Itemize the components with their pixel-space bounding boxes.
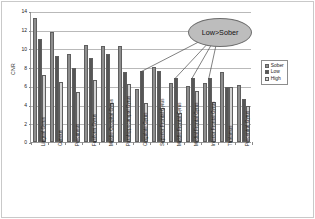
x-axis-tick-label: Parahippocampal Gyrus — [126, 96, 131, 146]
y-axis-tick-label: 10 — [10, 47, 27, 52]
bar-chart: CNR 14121086420 Lingual GyrusCuneusPrecu… — [0, 0, 315, 219]
y-axis-tick-mark — [29, 68, 32, 69]
legend-label: Sober — [271, 64, 284, 69]
x-axis-tick-label: Precuneus — [75, 124, 80, 146]
legend-swatch-icon — [265, 64, 269, 68]
y-axis-tick-mark — [29, 12, 32, 13]
x-axis-tick-label: Fusiform Gyrus — [92, 114, 97, 146]
x-axis-tick-label: Medial Frontal Gyrus — [194, 102, 199, 146]
y-axis-tick-label: 8 — [10, 66, 27, 71]
y-axis-tick-label: 2 — [10, 122, 27, 127]
bar — [237, 85, 241, 142]
y-axis-tick-label: 0 — [10, 140, 27, 145]
legend-label: High — [271, 77, 281, 82]
x-axis-tick-label: Thalamus — [228, 125, 233, 146]
x-axis-tick-label: Inferior Frontal Gyrus — [211, 102, 216, 147]
legend-item: High — [265, 77, 284, 82]
bar — [152, 67, 156, 142]
x-axis-tick-labels: Lingual GyrusCuneusPrecuneusFusiform Gyr… — [30, 144, 251, 219]
bar-group — [50, 12, 64, 142]
callout-bubble: Low>Sober — [188, 18, 252, 47]
y-axis-tick-mark — [29, 31, 32, 32]
x-axis-tick-label: Precentral Gyrus — [245, 111, 250, 146]
x-axis-tick-mark — [252, 142, 253, 145]
legend-item: Sober — [265, 64, 284, 69]
bar — [84, 45, 88, 142]
bar — [135, 89, 139, 142]
legend-swatch-icon — [265, 70, 269, 74]
bar — [101, 46, 105, 142]
y-axis-tick-mark — [29, 124, 32, 125]
bar — [67, 54, 71, 142]
legend-swatch-icon — [265, 77, 269, 81]
x-axis-tick-label: Middle Occipital Gyrus — [109, 99, 114, 146]
chart-legend: SoberLowHigh — [261, 60, 288, 85]
x-axis-tick-label: Lingual Gyrus — [41, 117, 46, 146]
y-axis-tick-mark — [29, 87, 32, 88]
y-axis-tick-mark — [29, 49, 32, 50]
bar — [220, 72, 224, 142]
bar — [33, 18, 37, 142]
y-axis-tick-labels: 14121086420 — [10, 0, 27, 219]
bar — [50, 32, 54, 142]
x-axis-tick-label: Middle Frontal Gyrus — [177, 102, 182, 146]
y-axis-tick-label: 4 — [10, 103, 27, 108]
bar — [169, 83, 173, 142]
y-axis-tick-mark — [29, 106, 32, 107]
y-axis-tick-label: 6 — [10, 84, 27, 89]
x-axis-tick-label: Superior Frontal Gyrus — [160, 98, 165, 146]
legend-item: Low — [265, 70, 284, 75]
callout-label: Low>Sober — [202, 28, 239, 37]
legend-label: Low — [271, 70, 280, 75]
y-axis-tick-label: 12 — [10, 28, 27, 33]
x-axis-tick-label: Cingulate Gyrus — [143, 112, 148, 146]
y-axis-tick-label: 14 — [10, 9, 27, 14]
bar — [118, 46, 122, 142]
bar — [203, 83, 207, 142]
bar-group — [67, 12, 81, 142]
bar — [186, 86, 190, 142]
x-axis-tick-label: Cuneus — [58, 130, 63, 146]
